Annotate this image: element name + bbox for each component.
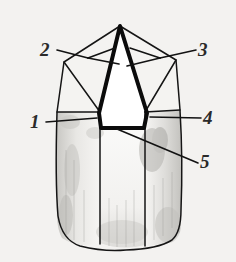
callout-label-1: 1 xyxy=(30,112,40,131)
crystal-figure: 2 3 1 4 5 xyxy=(0,0,236,262)
callout-label-5: 5 xyxy=(200,152,210,171)
callout-label-2: 2 xyxy=(40,40,50,59)
callout-label-3: 3 xyxy=(198,40,208,59)
callout-label-4: 4 xyxy=(203,108,213,127)
leader-4 xyxy=(150,117,201,118)
